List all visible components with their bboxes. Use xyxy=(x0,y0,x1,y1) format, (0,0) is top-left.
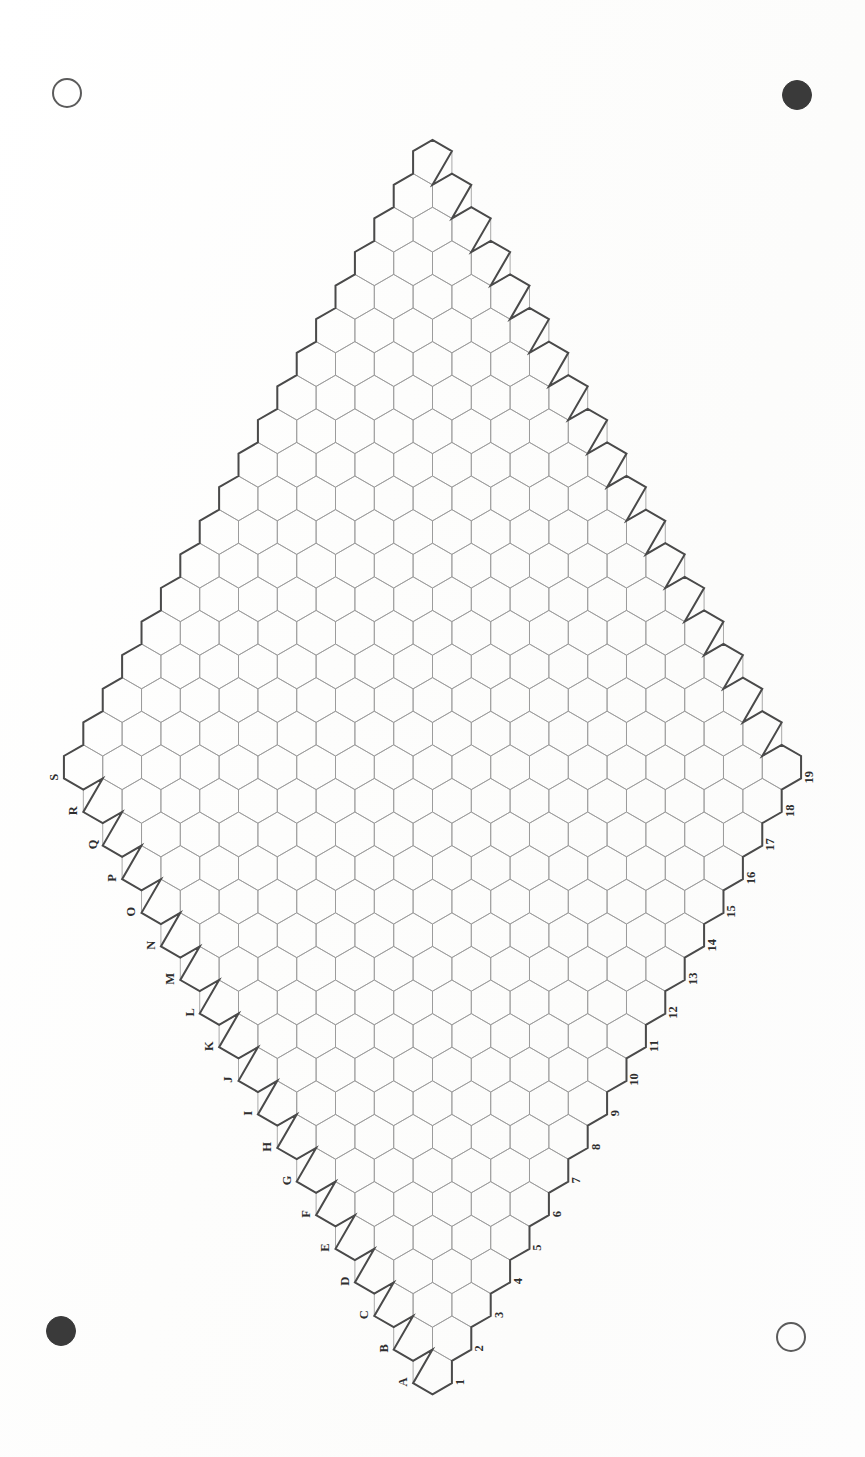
hex-cell[interactable] xyxy=(452,409,491,454)
hex-cell[interactable] xyxy=(200,577,239,622)
hex-cell[interactable] xyxy=(316,846,355,891)
hex-cell[interactable] xyxy=(394,980,433,1025)
hex-cell[interactable] xyxy=(122,778,161,823)
hex-cell[interactable] xyxy=(374,1148,413,1193)
hex-cell[interactable] xyxy=(549,644,588,689)
hex-cell[interactable] xyxy=(471,1182,510,1227)
hex-cell[interactable] xyxy=(336,946,375,991)
hex-cell[interactable] xyxy=(471,442,510,487)
hex-cell[interactable] xyxy=(394,375,433,420)
hex-cell[interactable] xyxy=(258,678,297,723)
hex-cell[interactable] xyxy=(142,745,181,790)
hex-cell[interactable] xyxy=(219,946,258,991)
hex-cell[interactable] xyxy=(510,510,549,555)
hex-cell[interactable] xyxy=(491,812,530,857)
hex-cell[interactable] xyxy=(452,1215,491,1260)
hex-cell[interactable] xyxy=(374,1215,413,1260)
hex-cell[interactable] xyxy=(239,644,278,689)
hex-cell[interactable] xyxy=(491,678,530,723)
hex-cell[interactable] xyxy=(471,644,510,689)
hex-cell[interactable] xyxy=(297,879,336,924)
hex-cell[interactable] xyxy=(529,543,568,588)
hex-cell[interactable] xyxy=(394,241,433,286)
hex-cell[interactable] xyxy=(258,610,297,655)
hex-cell[interactable] xyxy=(374,543,413,588)
hex-cell[interactable] xyxy=(336,543,375,588)
hex-cell[interactable] xyxy=(316,577,355,622)
hex-cell[interactable] xyxy=(685,678,724,723)
hex-cell[interactable] xyxy=(413,274,452,319)
hex-cell[interactable] xyxy=(452,342,491,387)
hex-cell[interactable] xyxy=(529,1081,568,1126)
hex-cell[interactable] xyxy=(394,577,433,622)
hex-cell[interactable] xyxy=(433,644,472,689)
hex-cell[interactable] xyxy=(219,812,258,857)
hex-cell[interactable] xyxy=(336,476,375,521)
hex-cell[interactable] xyxy=(316,644,355,689)
hex-cell[interactable] xyxy=(355,510,394,555)
hex-cell[interactable] xyxy=(103,745,142,790)
hex-cell[interactable] xyxy=(413,543,452,588)
hex-cell[interactable] xyxy=(297,543,336,588)
hex-cell[interactable] xyxy=(607,543,646,588)
hex-cell[interactable] xyxy=(142,678,181,723)
hex-cell[interactable] xyxy=(588,913,627,958)
hex-cell[interactable] xyxy=(413,1148,452,1193)
hex-cell[interactable] xyxy=(413,745,452,790)
hex-cell[interactable] xyxy=(219,879,258,924)
hex-cell[interactable] xyxy=(336,812,375,857)
hex-cell[interactable] xyxy=(433,510,472,555)
hex-cell[interactable] xyxy=(646,745,685,790)
hex-cell[interactable] xyxy=(491,1081,530,1126)
hex-cell[interactable] xyxy=(374,274,413,319)
hex-cell[interactable] xyxy=(433,308,472,353)
hex-cell[interactable] xyxy=(704,711,743,756)
hex-cell[interactable] xyxy=(180,745,219,790)
hex-cell[interactable] xyxy=(529,812,568,857)
hex-cell[interactable] xyxy=(529,946,568,991)
hex-cell[interactable] xyxy=(277,510,316,555)
hex-cell[interactable] xyxy=(510,913,549,958)
hex-cell[interactable] xyxy=(433,846,472,891)
hex-cell[interactable] xyxy=(355,577,394,622)
hex-cell[interactable] xyxy=(336,678,375,723)
hex-cell[interactable] xyxy=(394,1047,433,1092)
hex-cell[interactable] xyxy=(277,913,316,958)
hex-cell[interactable] xyxy=(607,745,646,790)
hex-cell[interactable] xyxy=(316,711,355,756)
hex-cell[interactable] xyxy=(316,778,355,823)
hex-cell[interactable] xyxy=(568,678,607,723)
hex-cell[interactable] xyxy=(180,610,219,655)
hex-cell[interactable] xyxy=(471,1114,510,1159)
hex-cell[interactable] xyxy=(510,375,549,420)
hex-cell[interactable] xyxy=(471,308,510,353)
hex-cell[interactable] xyxy=(433,1249,472,1294)
hex-cell[interactable] xyxy=(180,812,219,857)
hex-cell[interactable] xyxy=(180,678,219,723)
hex-cell[interactable] xyxy=(316,1047,355,1092)
hex-cell[interactable] xyxy=(316,442,355,487)
hex-cell[interactable] xyxy=(529,879,568,924)
hex-cell[interactable] xyxy=(491,745,530,790)
hex-cell[interactable] xyxy=(723,745,762,790)
hex-cell[interactable] xyxy=(297,812,336,857)
hex-cell[interactable] xyxy=(626,644,665,689)
hex-cell[interactable] xyxy=(549,1047,588,1092)
hex-cell[interactable] xyxy=(491,476,530,521)
hex-cell[interactable] xyxy=(471,980,510,1025)
hex-cell[interactable] xyxy=(568,1014,607,1059)
hex-cell[interactable] xyxy=(510,1047,549,1092)
hex-cell[interactable] xyxy=(336,1081,375,1126)
hex-cell[interactable] xyxy=(297,745,336,790)
hex-cell[interactable] xyxy=(239,778,278,823)
hex-cell[interactable] xyxy=(277,644,316,689)
hex-cell[interactable] xyxy=(394,913,433,958)
hex-cell[interactable] xyxy=(568,610,607,655)
hex-cell[interactable] xyxy=(374,745,413,790)
hex-cell[interactable] xyxy=(433,778,472,823)
hex-cell[interactable] xyxy=(355,375,394,420)
hex-cell[interactable] xyxy=(471,577,510,622)
hex-cell[interactable] xyxy=(588,510,627,555)
hex-cell[interactable] xyxy=(510,1114,549,1159)
hex-cell[interactable] xyxy=(588,778,627,823)
